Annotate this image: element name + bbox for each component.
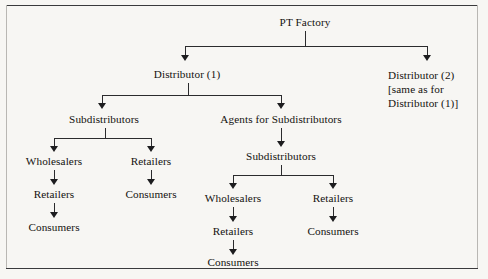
node-pt-factory: PT Factory bbox=[280, 16, 331, 29]
connector-distributor1-bus bbox=[102, 95, 281, 96]
node-distributor-2-line1: Distributor (2) bbox=[388, 68, 484, 82]
node-subdistributors-right: Subdistributors bbox=[246, 150, 316, 163]
connector-right-subdistributors-bus bbox=[233, 175, 333, 176]
connector-distributor1-stem bbox=[188, 83, 189, 95]
page-frame-top-rule bbox=[6, 5, 478, 6]
arrow-left-sub-to-wholesalers bbox=[50, 146, 58, 152]
arrow-right-sub-to-wholesalers bbox=[229, 183, 237, 189]
arrow-to-agents bbox=[277, 103, 285, 109]
node-distributor-2-line3: Distributor (1)] bbox=[388, 96, 484, 110]
node-left-wholesalers-retailers: Retailers bbox=[34, 188, 75, 201]
arrow-left-retailers-to-consumers bbox=[50, 212, 58, 218]
node-right-wholesalers-retailers: Retailers bbox=[213, 225, 254, 238]
page-frame-left-rule bbox=[6, 5, 7, 268]
node-distributor-2-line2: [same as for bbox=[388, 82, 484, 96]
node-left-wholesalers-consumers: Consumers bbox=[28, 221, 79, 234]
node-left-wholesalers: Wholesalers bbox=[26, 155, 82, 168]
arrow-left-wholesalers-to-retailers bbox=[50, 179, 58, 185]
connector-root-bus bbox=[185, 46, 427, 47]
arrow-to-left-subdistributors bbox=[98, 103, 106, 109]
arrow-to-distributor1 bbox=[181, 55, 189, 61]
connector-right-subdistributors-stem bbox=[281, 165, 282, 175]
connector-left-subdistributors-bus bbox=[54, 138, 151, 139]
node-distributor-2: Distributor (2) [same as for Distributor… bbox=[388, 68, 484, 110]
node-left-retailers-consumers: Consumers bbox=[125, 188, 176, 201]
node-agents-for-subdistributors: Agents for Subdistributors bbox=[220, 113, 341, 126]
node-left-retailers: Retailers bbox=[131, 155, 172, 168]
node-subdistributors-left: Subdistributors bbox=[69, 113, 139, 126]
node-right-wholesalers-consumers: Consumers bbox=[207, 256, 258, 269]
node-right-retailers: Retailers bbox=[313, 192, 354, 205]
node-right-wholesalers: Wholesalers bbox=[205, 192, 261, 205]
connector-root-stem bbox=[305, 31, 306, 46]
arrow-right-retailers-to-consumers bbox=[229, 249, 237, 255]
connector-agents-to-subdistributors bbox=[281, 128, 282, 142]
connector-left-subdistributors-stem bbox=[105, 128, 106, 138]
node-right-retailers-consumers: Consumers bbox=[307, 225, 358, 238]
arrow-left-retailers-to-consumers-2 bbox=[147, 179, 155, 185]
arrow-right-sub-to-retailers bbox=[329, 183, 337, 189]
page-frame-right-rule bbox=[477, 5, 478, 268]
arrow-right-retailers-to-consumers-2 bbox=[329, 216, 337, 222]
arrow-left-sub-to-retailers bbox=[147, 146, 155, 152]
arrow-right-wholesalers-to-retailers bbox=[229, 216, 237, 222]
node-distributor-1: Distributor (1) bbox=[154, 68, 220, 81]
arrow-agents-to-subdistributors bbox=[277, 141, 285, 147]
diagram-canvas: PT Factory Distributor (1) Distributor (… bbox=[0, 0, 488, 279]
arrow-to-distributor2 bbox=[423, 55, 431, 61]
